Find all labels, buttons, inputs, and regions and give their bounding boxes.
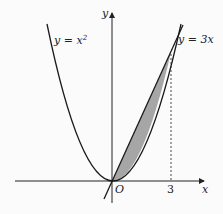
graph-canvas: y x O 3 y = x2 y = 3x	[0, 0, 223, 214]
parabola-curve	[47, 24, 181, 181]
origin-label: O	[115, 183, 124, 196]
line-label: y = 3x	[177, 33, 214, 46]
parabola-label: y = x2	[53, 34, 88, 47]
tick-label-3: 3	[167, 183, 174, 196]
y-axis-label: y	[101, 7, 109, 20]
x-axis-label: x	[202, 183, 209, 196]
math-figure: y x O 3 y = x2 y = 3x	[0, 0, 223, 214]
